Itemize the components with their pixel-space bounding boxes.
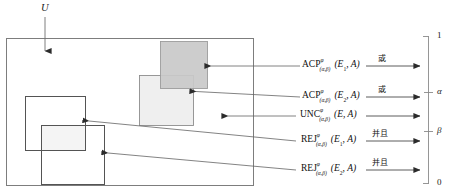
formula-acp-e2-superscript: φ [320, 88, 323, 94]
formula-unc: UNCφ(α,β)(E, A) [300, 110, 357, 120]
formula-rej-e1-superscript: φ [317, 132, 320, 138]
formula-unc-subscript: (α,β) [319, 116, 330, 122]
axis-label-one: 1 [437, 31, 442, 40]
formula-rej-e2-superscript: φ [317, 161, 320, 167]
formula-acp-e1: ACPφ(α,β)(E1, A) [302, 60, 360, 70]
formula-acp-e2-arg-index: 2 [343, 97, 346, 103]
formula-acp-e1-superscript: φ [320, 57, 323, 63]
formula-rej-e1-operator: REJ [301, 134, 317, 144]
axis-label-zero: 0 [437, 178, 442, 187]
formula-rej-e1-argument: (E [331, 134, 340, 144]
formula-acp-e1-operator: ACP [302, 59, 320, 69]
formula-unc-argument: (E [334, 109, 343, 119]
connector-rej-e1: 并且 [372, 130, 388, 138]
connector-rej-e2: 并且 [372, 159, 388, 167]
formula-rej-e2-subscript: (α,β) [316, 170, 327, 176]
formula-rej-e1-subscript: (α,β) [316, 141, 327, 147]
axis-label-beta: β [437, 126, 441, 135]
formula-unc-operator: UNC [300, 109, 320, 119]
formula-rej-e2-arg-index: 2 [340, 170, 343, 176]
formula-rej-e1-arg-tail: , A) [343, 134, 357, 144]
connector-acp-e1: 或 [378, 55, 386, 63]
formula-acp-e1-subscript: (α,β) [320, 66, 331, 72]
formula-rej-e2-operator: REJ [301, 163, 317, 173]
formula-rej-e1: REJφ(α,β)(E1, A) [301, 135, 356, 145]
leader-line-acp-e2 [196, 92, 300, 98]
formula-unc-arg-tail: , A) [343, 109, 357, 119]
formula-rej-e2-arg-tail: , A) [343, 163, 357, 173]
open-square-overlap-tint [42, 126, 85, 150]
figure-canvas: U ACPφ(α,β)(E1, A) 或 ACPφ(α,β)(E2, A) 或 … [0, 0, 451, 194]
formula-rej-e2: REJφ(α,β)(E2, A) [301, 164, 356, 174]
connector-acp-e2: 或 [378, 86, 386, 94]
axis-label-alpha: α [437, 87, 442, 96]
formula-unc-superscript: φ [320, 107, 323, 113]
formula-acp-e1-arg-index: 1 [343, 66, 346, 72]
formula-acp-e2-arg-tail: , A) [346, 90, 360, 100]
universe-label: U [41, 3, 49, 14]
formula-acp-e2-subscript: (α,β) [320, 97, 331, 103]
universe-rectangle [7, 39, 254, 186]
formula-rej-e1-arg-index: 1 [340, 141, 343, 147]
dark-shaded-square [161, 42, 208, 89]
formula-acp-e1-arg-tail: , A) [346, 59, 360, 69]
formula-acp-e2: ACPφ(α,β)(E2, A) [302, 91, 360, 101]
leader-line-rej-e2 [108, 153, 296, 170]
formula-acp-e2-operator: ACP [302, 90, 320, 100]
formula-rej-e2-argument: (E [331, 163, 340, 173]
